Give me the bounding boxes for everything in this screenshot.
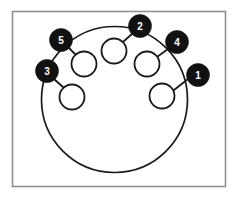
pin-badge-label-4: 4 [174,37,180,48]
pin-hole-4 [135,52,160,77]
diagram-frame [13,12,226,187]
pin-hole-1 [150,84,175,109]
connector-pinout-diagram: 12345 [0,0,239,198]
pin-hole-3 [60,85,85,110]
pin-hole-2 [102,39,127,64]
pin-badge-label-2: 2 [137,21,143,32]
pin-badge-label-3: 3 [44,66,50,77]
pin-badge-label-1: 1 [195,70,201,81]
pinout-canvas: 12345 [0,0,239,198]
pin-hole-5 [72,52,97,77]
pin-badge-label-5: 5 [58,35,64,46]
